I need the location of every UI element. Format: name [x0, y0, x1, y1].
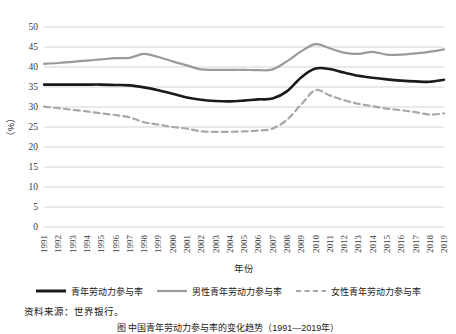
y-tick-label: 35	[29, 82, 39, 92]
x-tick-label: 2010	[311, 235, 321, 254]
y-tick-label: 15	[29, 162, 39, 172]
legend-item[interactable]: 男性青年劳动力参与率	[157, 285, 282, 298]
x-tick-label: 2019	[439, 235, 449, 254]
x-tick-label: 1999	[153, 235, 163, 254]
x-tick-label: 2013	[353, 235, 363, 254]
series-line-2	[44, 90, 444, 132]
y-tick-label: 20	[29, 142, 39, 152]
chart-legend: 青年劳动力参与率男性青年劳动力参与率女性青年劳动力参与率	[0, 282, 456, 300]
x-tick-label: 1996	[111, 235, 121, 254]
x-tick-label: 1997	[125, 235, 135, 254]
x-tick-label: 2007	[268, 235, 278, 254]
x-tick-label: 1992	[53, 235, 63, 253]
x-tick-label: 1994	[82, 235, 92, 254]
y-tick-label: 30	[29, 102, 39, 112]
legend-swatch-solid-icon	[36, 286, 66, 296]
x-tick-label: 2004	[225, 235, 235, 254]
legend-swatch-dashed-icon	[296, 286, 326, 296]
series-line-0	[44, 68, 444, 101]
x-tick-label: 2011	[325, 235, 335, 253]
y-axis-title: （%）	[5, 113, 16, 141]
x-tick-label: 2015	[382, 235, 392, 254]
x-tick-label: 2009	[296, 235, 306, 254]
x-tick-label: 2003	[211, 235, 221, 254]
x-axis-title: 年份	[234, 263, 254, 274]
x-tick-label: 1993	[68, 235, 78, 254]
x-tick-label: 2005	[239, 235, 249, 254]
x-tick-label: 2008	[282, 235, 292, 254]
x-tick-label: 2018	[425, 235, 435, 254]
y-tick-label: 40	[29, 62, 39, 72]
legend-label: 青年劳动力参与率	[71, 285, 143, 298]
line-chart-plot: 05101520253035404550（%）19911992199319941…	[0, 0, 456, 296]
source-note: 资料来源：世界银行。	[24, 304, 124, 318]
legend-label: 女性青年劳动力参与率	[331, 285, 421, 298]
figure-caption: 图 中国青年劳动力参与率的变化趋势（1991—2019年）	[0, 322, 456, 334]
y-tick-label: 5	[33, 202, 38, 212]
x-tick-label: 1998	[139, 235, 149, 254]
y-tick-label: 45	[29, 42, 39, 52]
y-tick-label: 10	[29, 182, 39, 192]
x-tick-label: 2002	[196, 235, 206, 253]
y-tick-label: 25	[29, 122, 39, 132]
x-tick-label: 2014	[368, 235, 378, 254]
x-tick-label: 2016	[396, 235, 406, 254]
y-tick-label: 0	[33, 222, 38, 232]
chart-area: 05101520253035404550（%）19911992199319941…	[0, 0, 456, 296]
x-tick-label: 1995	[96, 235, 106, 254]
series-line-1	[44, 44, 444, 70]
legend-label: 男性青年劳动力参与率	[192, 285, 282, 298]
x-tick-label: 2000	[168, 235, 178, 254]
legend-item[interactable]: 女性青年劳动力参与率	[296, 285, 421, 298]
x-tick-label: 1991	[39, 235, 49, 253]
x-tick-label: 2012	[339, 235, 349, 253]
legend-item[interactable]: 青年劳动力参与率	[36, 285, 143, 298]
x-tick-label: 2006	[253, 235, 263, 254]
y-tick-label: 50	[29, 22, 39, 32]
x-tick-label: 2017	[411, 235, 421, 254]
figure-container: 05101520253035404550（%）19911992199319941…	[0, 0, 456, 334]
x-tick-label: 2001	[182, 235, 192, 253]
legend-swatch-solid-icon	[157, 286, 187, 296]
